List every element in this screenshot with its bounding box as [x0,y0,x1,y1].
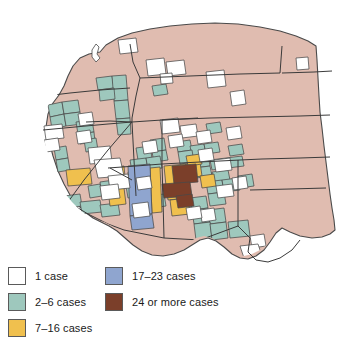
figure-root: 1 case 2–6 cases 7–16 cases 17–23 cases … [0,0,351,347]
swatch-2-6 [8,293,26,311]
county-white-co-3 [196,130,212,144]
legend-label-17-23: 17–23 cases [132,271,195,282]
county-white-wy-1 [226,126,242,140]
county-yellow-ca-1 [66,168,92,186]
legend-item-2-6-cases: 2–6 cases [8,290,92,314]
legend-item-17-23-cases: 17–23 cases [105,264,219,288]
county-white-nv-1 [76,130,92,144]
county-teal-id-2 [114,100,130,119]
county-white-az-1 [132,202,150,218]
county-white-ca-3 [100,184,120,200]
county-white-co-2 [180,124,198,138]
legend-column-right: 17–23 cases 24 or more cases [105,264,219,316]
county-white-mt-2 [160,73,173,84]
county-white-co-4 [168,134,184,148]
legend-label-24-plus: 24 or more cases [132,297,219,308]
swatch-24-plus [105,293,123,311]
legend-item-24-plus-cases: 24 or more cases [105,290,219,314]
county-white-nm-3 [232,176,248,190]
county-teal-ca-s2 [80,200,102,214]
legend-label-7-16: 7–16 cases [35,323,92,334]
legend-label-2-6: 2–6 cases [35,297,86,308]
county-teal-ca-n1 [62,100,80,114]
county-white-ut-2 [136,176,152,190]
choropleth-map-svg [0,0,351,267]
county-white-mt-1 [230,90,246,106]
county-white-ca-2 [78,112,94,126]
county-white-ut-1 [142,140,158,154]
county-white-nm-2 [216,184,234,198]
county-teal-mt-1 [152,84,168,96]
legend-column-left: 1 case 2–6 cases 7–16 cases [8,264,92,342]
county-white-wa-1 [118,38,138,54]
county-white-nm-5 [186,206,202,220]
county-white-co-5 [198,148,214,162]
map-legend: 1 case 2–6 cases 7–16 cases 17–23 cases … [8,264,258,344]
county-yellow-nm-e [200,174,216,188]
county-white-nm-4 [200,208,216,222]
counties-17-23-cases [128,164,154,230]
swatch-7-16 [8,319,26,337]
swatch-1-case [8,267,26,285]
legend-item-1-case: 1 case [8,264,92,288]
county-brown-nm-mckinley [172,164,198,184]
county-white-or-1 [146,58,166,76]
county-white-ca-1 [44,138,60,152]
county-teal-ca-s1 [64,194,82,208]
county-white-nd-1 [296,57,309,70]
county-white-id-1 [206,70,226,88]
county-teal-co-ne [228,144,244,156]
legend-label-1-case: 1 case [35,271,68,282]
county-teal-wa-1 [96,76,114,90]
swatch-17-23 [105,267,123,285]
county-brown-nm-bernalillo [176,194,194,208]
county-white-or-3 [44,124,64,140]
map-area [0,0,351,267]
legend-item-7-16-cases: 7–16 cases [8,316,92,340]
